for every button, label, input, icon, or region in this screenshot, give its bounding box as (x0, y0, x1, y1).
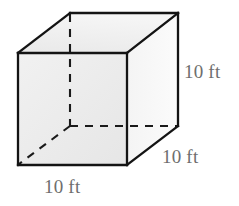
cube-face-front (18, 53, 127, 165)
cube-figure: 10 ft 10 ft 10 ft (0, 0, 239, 206)
dimension-label-width: 10 ft (44, 177, 80, 196)
cube-drawing (0, 0, 239, 206)
dimension-label-height: 10 ft (184, 62, 220, 81)
dimension-label-depth: 10 ft (162, 147, 198, 166)
